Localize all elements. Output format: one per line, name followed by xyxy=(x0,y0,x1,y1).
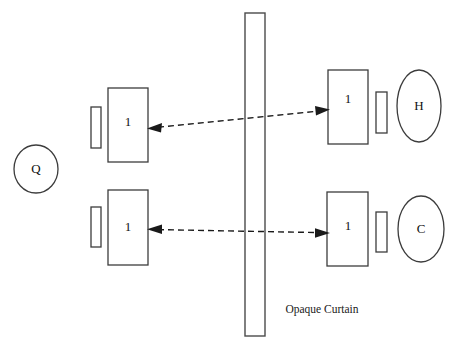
box-upper-left-label: 1 xyxy=(125,114,132,129)
opaque-curtain xyxy=(245,13,265,336)
box-lower-right-label: 1 xyxy=(345,218,352,233)
box-upper-right xyxy=(328,70,368,144)
arrow-lower xyxy=(147,225,330,238)
bar-upper-right xyxy=(376,92,387,133)
opaque-curtain-label: Opaque Curtain xyxy=(285,303,358,316)
physics-diagram: Q H C 1 1 1 1 Op xyxy=(0,0,461,348)
bar-lower-left xyxy=(91,207,101,247)
bar-lower-right xyxy=(376,212,387,252)
diagram-canvas: Q H C 1 1 1 1 Op xyxy=(0,0,461,348)
arrow-lower-left-head xyxy=(147,225,162,235)
box-upper-right-label: 1 xyxy=(345,91,352,106)
source-q-label: Q xyxy=(31,161,41,176)
detector-c-label: C xyxy=(417,221,426,236)
arrow-upper-left-head xyxy=(147,123,162,133)
box-lower-left-label: 1 xyxy=(125,219,132,234)
bar-upper-left xyxy=(91,107,101,148)
detector-h-label: H xyxy=(414,98,423,113)
arrow-upper xyxy=(147,106,330,133)
